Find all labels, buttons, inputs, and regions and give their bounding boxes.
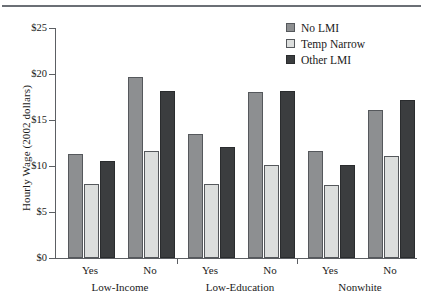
bar (68, 154, 83, 258)
top-horizontal-rule (2, 5, 421, 7)
bar (308, 151, 323, 258)
legend-label: No LMI (301, 22, 339, 34)
x-tick-label: Yes (60, 264, 120, 276)
x-tick-label: No (360, 264, 420, 276)
y-tick-mark (49, 166, 56, 167)
y-tick-mark (49, 212, 56, 213)
x-group-label: Low-Income (60, 281, 180, 293)
legend-item: Other LMI (286, 52, 365, 67)
x-tick-label: No (120, 264, 180, 276)
y-tick-mark (49, 74, 56, 75)
bar (220, 147, 235, 258)
y-tick-label: $20 (0, 69, 47, 79)
bar (340, 165, 355, 258)
legend-label: Other LMI (301, 54, 351, 66)
bar (264, 165, 279, 258)
x-group-label: Low-Education (180, 281, 300, 293)
y-tick-mark (49, 258, 56, 259)
legend-item: No LMI (286, 20, 365, 35)
bar (144, 151, 159, 258)
bar (84, 184, 99, 258)
x-tick-label: Yes (180, 264, 240, 276)
y-tick-label: $25 (0, 23, 47, 33)
y-tick-label: $0 (0, 253, 47, 263)
bar (400, 100, 415, 258)
bar (368, 110, 383, 258)
bar (248, 92, 263, 258)
legend-swatch-icon (286, 23, 295, 32)
x-tick-label: No (240, 264, 300, 276)
x-tick-label: Yes (300, 264, 360, 276)
legend-label: Temp Narrow (301, 38, 365, 50)
y-axis-line (55, 28, 56, 259)
bar (204, 184, 219, 258)
figure-container: Hourly Wage (2002 dollars) $0$5$10$15$20… (0, 0, 423, 304)
legend-swatch-icon (286, 55, 295, 64)
bar (324, 185, 339, 258)
legend-item: Temp Narrow (286, 36, 365, 51)
bar (160, 91, 175, 258)
legend-swatch-icon (286, 39, 295, 48)
bar (384, 156, 399, 258)
y-tick-label: $10 (0, 161, 47, 171)
bar (280, 91, 295, 258)
y-tick-mark (49, 28, 56, 29)
bar (188, 134, 203, 258)
x-axis-line (55, 258, 417, 259)
y-tick-label: $5 (0, 207, 47, 217)
x-group-label: Nonwhite (300, 281, 420, 293)
bar (128, 77, 143, 258)
y-tick-label: $15 (0, 115, 47, 125)
y-tick-mark (49, 120, 56, 121)
bar (100, 161, 115, 258)
chart-legend: No LMITemp NarrowOther LMI (286, 20, 365, 68)
